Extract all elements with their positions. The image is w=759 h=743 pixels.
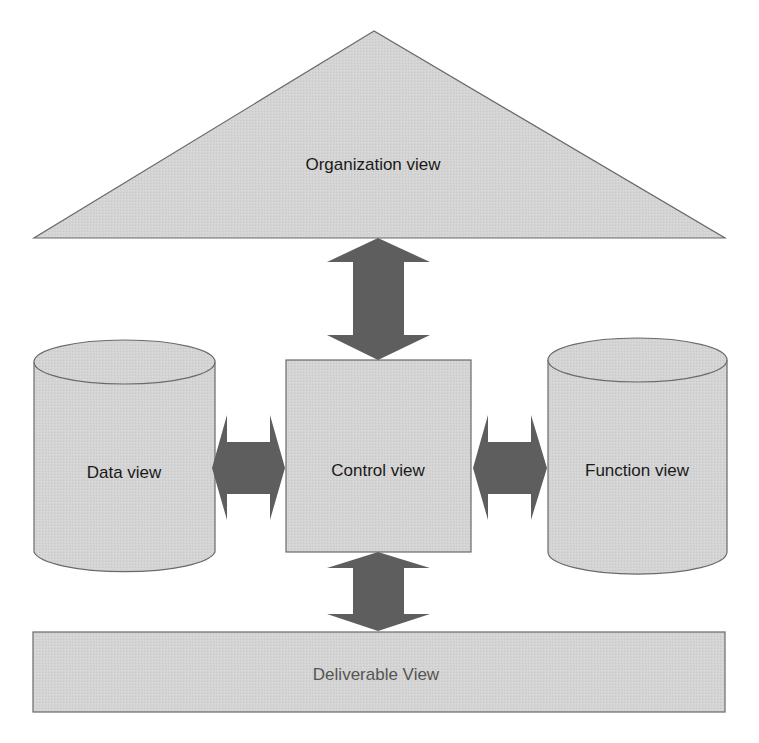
control-function-arrow <box>473 415 547 520</box>
function-view-label: Function view <box>585 461 690 480</box>
data-view-node: Data view <box>34 340 215 572</box>
org-control-arrow <box>327 238 430 360</box>
aris-house-diagram: Organization view Data view Control view… <box>0 0 759 743</box>
deliverable-view-label: Deliverable View <box>313 665 440 684</box>
control-view-node: Control view <box>286 360 471 552</box>
data-view-label: Data view <box>87 463 162 482</box>
function-view-node: Function view <box>548 338 727 574</box>
organization-view-label: Organization view <box>305 155 441 174</box>
organization-view-node: Organization view <box>34 31 725 238</box>
control-deliverable-arrow <box>327 552 430 631</box>
control-view-label: Control view <box>331 461 425 480</box>
data-control-arrow <box>212 415 285 520</box>
deliverable-view-node: Deliverable View <box>33 632 725 712</box>
